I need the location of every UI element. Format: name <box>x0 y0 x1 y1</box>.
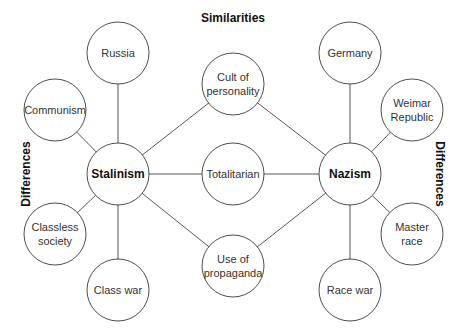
node-label: propaganda <box>204 267 264 279</box>
node-label: Nazism <box>329 167 371 181</box>
node-master: Masterrace <box>381 203 443 265</box>
node-label: Class war <box>94 284 143 296</box>
node-circle <box>202 235 264 297</box>
node-classwar: Class war <box>87 259 149 321</box>
node-stalinism: Stalinism <box>87 143 149 205</box>
node-circle <box>381 203 443 265</box>
node-label: society <box>38 235 73 247</box>
node-label: Master <box>395 221 429 233</box>
differences-heading-left: Differences <box>19 141 33 207</box>
concept-map: StalinismNazismCult ofpersonalityTotalit… <box>0 0 466 336</box>
node-label: Germany <box>327 47 373 59</box>
node-label: Totalitarian <box>206 168 259 180</box>
node-label: Use of <box>217 253 250 265</box>
node-russia: Russia <box>87 22 149 84</box>
node-label: Race war <box>327 284 374 296</box>
node-circle <box>381 79 443 141</box>
concept-nodes: StalinismNazismCult ofpersonalityTotalit… <box>24 22 443 321</box>
node-label: Cult of <box>217 71 250 83</box>
node-totalitarian: Totalitarian <box>202 143 264 205</box>
node-circle <box>24 203 86 265</box>
node-propaganda: Use ofpropaganda <box>202 235 264 297</box>
node-label: Weimar <box>393 97 431 109</box>
node-weimar: WeimarRepublic <box>381 79 443 141</box>
node-label: personality <box>206 85 260 97</box>
similarities-heading: Similarities <box>201 11 265 25</box>
node-communism: Communism <box>24 79 86 141</box>
node-label: Republic <box>391 111 434 123</box>
node-label: Communism <box>24 104 86 116</box>
node-label: Russia <box>101 47 136 59</box>
node-classless: Classlesssociety <box>24 203 86 265</box>
node-cult: Cult ofpersonality <box>202 53 264 115</box>
differences-heading-right: Differences <box>433 141 447 207</box>
node-label: race <box>401 235 422 247</box>
node-germany: Germany <box>319 22 381 84</box>
node-circle <box>202 53 264 115</box>
node-nazism: Nazism <box>319 143 381 205</box>
node-label: Classless <box>31 221 79 233</box>
node-label: Stalinism <box>91 167 144 181</box>
node-racewar: Race war <box>319 259 381 321</box>
